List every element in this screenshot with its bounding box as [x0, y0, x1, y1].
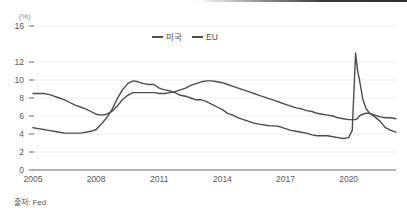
x-axis-tick-label: 2005 — [13, 174, 53, 184]
x-axis-tick-label: 2020 — [329, 174, 369, 184]
series-line-eu — [33, 81, 396, 120]
x-axis-tick-label: 2014 — [202, 174, 242, 184]
series-lines — [33, 53, 396, 139]
y-axis-tick-label: 6 — [8, 111, 24, 121]
y-axis-tick-label: 16 — [8, 21, 24, 31]
gridlines — [33, 26, 396, 152]
x-axis-tick-label: 2017 — [266, 174, 306, 184]
y-axis-tick-label: 2 — [8, 147, 24, 157]
x-axis-tick-label: 2008 — [76, 174, 116, 184]
y-axis-tick-label: 8 — [8, 93, 24, 103]
y-axis-tick-label: 4 — [8, 129, 24, 139]
axis-tick-marks — [29, 26, 34, 170]
y-axis-tick-label: 10 — [8, 75, 24, 85]
series-line-us — [33, 53, 396, 139]
source-note: 출처: Fed — [14, 196, 46, 207]
x-axis-tick-label: 2011 — [139, 174, 179, 184]
chart-figure: (%) 미국 EU 02468101216 200520082011201420… — [0, 0, 407, 215]
y-axis-tick-label: 12 — [8, 57, 24, 67]
